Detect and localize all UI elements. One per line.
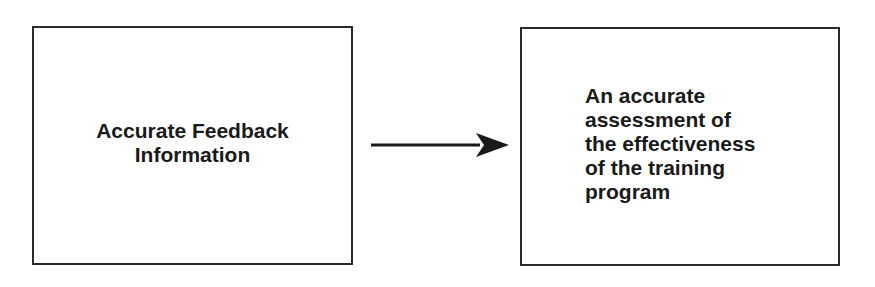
node-accurate-feedback-information: Accurate Feedback Information xyxy=(32,26,353,265)
node-label-line: assessment of xyxy=(585,108,755,132)
node-label-line: program xyxy=(585,180,755,204)
node-label-line: Information xyxy=(96,143,289,167)
node-label-line: An accurate xyxy=(585,84,755,108)
node-label-line: of the training xyxy=(585,156,755,180)
node-label-line: the effectiveness xyxy=(585,132,755,156)
node-label: Accurate Feedback Information xyxy=(96,119,289,167)
node-label: An accurate assessment of the effectiven… xyxy=(585,84,755,204)
arrow-right-icon xyxy=(368,128,513,162)
node-label-line: Accurate Feedback xyxy=(96,119,289,143)
node-accurate-assessment: An accurate assessment of the effectiven… xyxy=(520,27,840,266)
